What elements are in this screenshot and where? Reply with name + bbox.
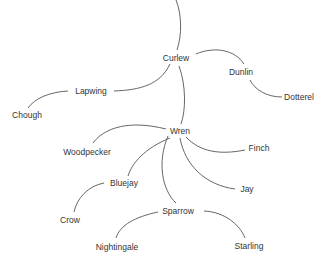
edge-wren-bluejay [128, 138, 170, 176]
tree-diagram: CurlewDunlinDotterelLapwingChoughWrenWoo… [0, 0, 331, 256]
edge-wren-woodpecker [93, 125, 166, 143]
node-crow: Crow [60, 216, 80, 225]
edge-bluejay-crow [74, 183, 104, 212]
node-curlew: Curlew [163, 54, 189, 63]
edge-lapwing-chough [28, 91, 68, 108]
edge-wren-sparrow [162, 136, 176, 203]
node-dunlin: Dunlin [229, 68, 253, 77]
edge-curlew-wren [179, 66, 185, 124]
node-dotterel: Dotterel [284, 93, 314, 102]
node-chough: Chough [12, 111, 42, 120]
node-wren: Wren [170, 127, 190, 136]
node-nightingale: Nightingale [96, 243, 139, 252]
node-starling: Starling [235, 242, 264, 251]
edge-layer [0, 0, 331, 256]
edge-root-curlew [176, 0, 181, 50]
edge-curlew-lapwing [114, 64, 170, 91]
node-bluejay: Bluejay [110, 179, 138, 188]
node-sparrow: Sparrow [162, 207, 194, 216]
node-woodpecker: Woodpecker [63, 148, 111, 157]
edge-wren-jay [180, 138, 235, 189]
node-finch: Finch [249, 144, 270, 153]
edge-dunlin-dotterel [250, 80, 282, 97]
edge-curlew-dunlin [196, 50, 244, 64]
node-lapwing: Lapwing [75, 87, 107, 96]
edge-wren-finch [186, 137, 245, 152]
node-jay: Jay [240, 185, 253, 194]
edge-sparrow-starling [204, 211, 245, 238]
edge-sparrow-nightingale [116, 212, 158, 238]
